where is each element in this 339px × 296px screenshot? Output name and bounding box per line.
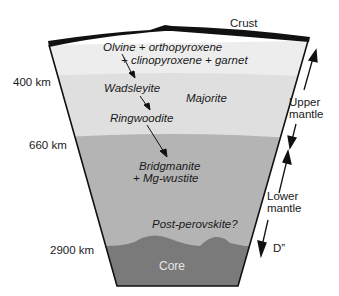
- olivine-label-1: Olvine + orthopyroxene: [103, 41, 222, 53]
- wadsleyite-label: Wadsleyite: [104, 82, 160, 94]
- depth-400-label: 400 km: [13, 76, 51, 88]
- lower-mantle-up-arrow: [283, 151, 291, 164]
- crust-label: Crust: [230, 17, 258, 29]
- depth-2900-label: 2900 km: [50, 244, 94, 256]
- olivine-label-2: + clinopyroxene + garnet: [121, 54, 248, 66]
- post-perovskite-label: Post-perovskite?: [152, 218, 238, 230]
- lower-mantle-label-2: mantle: [267, 202, 302, 214]
- upper-mantle-up-arrow: [309, 50, 317, 62]
- d-double-prime-label: D”: [273, 242, 285, 254]
- upper-mantle-down-arrow: [288, 136, 296, 148]
- lower-mantle-label-1: Lower: [267, 190, 298, 202]
- bridgmanite-label-2: + Mg-wustite: [133, 172, 199, 184]
- depth-660-label: 660 km: [29, 139, 67, 151]
- majorite-label: Majorite: [186, 92, 227, 104]
- upper-mantle-label-2: mantle: [289, 108, 324, 120]
- core-label: Core: [159, 259, 185, 273]
- ringwoodite-label: Ringwoodite: [110, 112, 173, 124]
- bridgmanite-label-1: Bridgmanite: [139, 160, 200, 172]
- upper-mantle-label-1: Upper: [289, 96, 320, 108]
- earth-section-diagram: Crust Olvine + orthopyroxene + clinopyro…: [0, 0, 339, 296]
- lower-mantle-down-arrow: [258, 241, 266, 256]
